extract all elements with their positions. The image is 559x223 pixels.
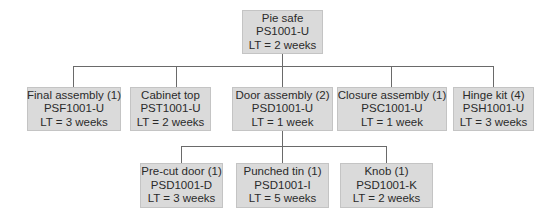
node-name: Pie safe (262, 12, 304, 26)
connector-closure-assembly (391, 66, 392, 87)
node-part-number: PSF1001-U (44, 102, 104, 116)
node-lead-time: LT = 1 week (361, 116, 423, 130)
connector-pre-cut-door (181, 146, 182, 163)
node-name: Door assembly (2) (236, 89, 330, 103)
node-punched-tin: Punched tin (1) PSD1001-I LT = 5 weeks (236, 163, 329, 208)
node-name: Final assembly (1) (27, 89, 121, 103)
node-lead-time: LT = 2 weeks (353, 192, 421, 206)
node-door-assembly: Door assembly (2) PSD1001-U LT = 1 week (232, 87, 333, 131)
node-cabinet-top: Cabinet top PST1001-U LT = 2 weeks (130, 87, 211, 131)
node-pie-safe: Pie safe PS1001-U LT = 2 weeks (242, 10, 323, 54)
node-lead-time: LT = 3 weeks (148, 192, 216, 206)
node-lead-time: LT = 2 weeks (249, 39, 317, 53)
node-hinge-kit: Hinge kit (4) PSH1001-U LT = 3 weeks (453, 87, 534, 131)
connector-final-assembly (73, 66, 74, 87)
node-name: Closure assembly (1) (338, 89, 447, 103)
node-name: Punched tin (1) (244, 165, 322, 179)
connector-knob (386, 146, 387, 163)
node-name: Cabinet top (141, 89, 200, 103)
connector-level2-bus (73, 66, 494, 67)
node-part-number: PST1001-U (140, 102, 200, 116)
connector-door-down (282, 130, 283, 146)
node-part-number: PSC1001-U (361, 102, 422, 116)
connector-door-assembly (282, 66, 283, 88)
connector-hinge-kit (493, 66, 494, 87)
connector-punched-tin (282, 146, 283, 163)
node-knob: Knob (1) PSD1001-K LT = 2 weeks (340, 163, 433, 208)
node-part-number: PSD1001-U (252, 102, 313, 116)
node-lead-time: LT = 1 week (252, 116, 314, 130)
connector-level3-bus (181, 146, 387, 147)
node-lead-time: LT = 5 weeks (249, 192, 317, 206)
node-pre-cut-door: Pre-cut door (1) PSD1001-D LT = 3 weeks (140, 163, 223, 208)
node-part-number: PSD1001-D (151, 179, 212, 193)
node-part-number: PSD1001-I (254, 179, 310, 193)
connector-root-down (282, 53, 283, 66)
node-part-number: PSD1001-K (356, 179, 417, 193)
node-closure-assembly: Closure assembly (1) PSC1001-U LT = 1 we… (337, 87, 447, 131)
node-part-number: PS1001-U (256, 25, 309, 39)
node-name: Hinge kit (4) (463, 89, 525, 103)
node-name: Pre-cut door (1) (141, 165, 222, 179)
node-name: Knob (1) (364, 165, 408, 179)
node-lead-time: LT = 3 weeks (460, 116, 528, 130)
connector-cabinet-top (176, 66, 177, 87)
node-final-assembly: Final assembly (1) PSF1001-U LT = 3 week… (27, 87, 121, 131)
node-lead-time: LT = 3 weeks (40, 116, 108, 130)
node-part-number: PSH1001-U (463, 102, 524, 116)
node-lead-time: LT = 2 weeks (137, 116, 205, 130)
